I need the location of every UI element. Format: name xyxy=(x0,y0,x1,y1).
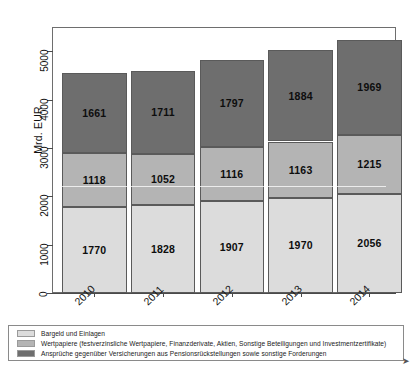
bar-value-label: 1797 xyxy=(220,97,244,109)
bar-segment: 1828 xyxy=(131,205,196,293)
legend-swatch xyxy=(17,330,35,337)
cursor-artifact: ➤ xyxy=(402,356,410,366)
bar-group: 190711161797 xyxy=(200,27,265,293)
legend-label: Bargeld und Einlagen xyxy=(41,330,105,337)
bar-value-label: 1884 xyxy=(289,90,313,102)
bar-value-label: 1970 xyxy=(289,239,313,251)
bar-segment: 1661 xyxy=(62,73,127,153)
bar-value-label: 1163 xyxy=(289,164,313,176)
legend-swatch xyxy=(17,350,35,357)
bar-segment: 1884 xyxy=(268,50,333,141)
y-axis-tick-label: 2000 xyxy=(39,195,50,217)
stacked-bar-chart: Mrd. EUR 010002000300040005000 177011181… xyxy=(0,0,412,370)
bar-segment: 1118 xyxy=(62,153,127,207)
bar-group: 177011181661 xyxy=(62,27,127,293)
chart-legend: Bargeld und EinlagenWertpapiere (festver… xyxy=(8,325,404,361)
bar-value-label: 1969 xyxy=(357,81,381,93)
x-axis-tick xyxy=(94,293,95,297)
bar-value-label: 1661 xyxy=(82,107,106,119)
bar-value-label: 2056 xyxy=(357,237,381,249)
bar-value-label: 1907 xyxy=(220,241,244,253)
legend-item: Wertpapiere (festverzinsliche Wertpapier… xyxy=(17,339,403,349)
bar-value-label: 1770 xyxy=(82,244,106,256)
bar-segment: 1163 xyxy=(268,142,333,198)
y-axis-tick-label: 1000 xyxy=(39,243,50,265)
bar-segment: 1969 xyxy=(337,40,402,135)
bar-segment: 1770 xyxy=(62,207,127,293)
bar-value-label: 1116 xyxy=(220,168,243,180)
legend-swatch xyxy=(17,340,35,347)
bar-segment: 1711 xyxy=(131,71,196,154)
y-axis-tick-label: 3000 xyxy=(39,146,50,168)
legend-item: Ansprüche gegenüber Versicherungen aus P… xyxy=(17,349,403,359)
y-axis-tick-label: 4000 xyxy=(39,98,50,120)
bar-value-label: 1215 xyxy=(357,158,381,170)
bar-segment: 1970 xyxy=(268,198,333,293)
bar-value-label: 1828 xyxy=(151,243,175,255)
bars-layer: 1770111816611828105217111907111617971970… xyxy=(52,27,396,293)
bar-group: 197011631884 xyxy=(268,27,333,293)
bar-segment: 1797 xyxy=(200,60,265,147)
y-axis-tick-label: 5000 xyxy=(39,50,50,72)
y-axis: 010002000300040005000 xyxy=(38,27,53,293)
bar-segment: 1052 xyxy=(131,154,196,205)
bar-segment: 2056 xyxy=(337,194,402,293)
legend-label: Ansprüche gegenüber Versicherungen aus P… xyxy=(41,350,327,357)
bar-value-label: 1118 xyxy=(83,174,106,186)
bar-value-label: 1052 xyxy=(151,173,175,185)
bar-segment: 1907 xyxy=(200,201,265,293)
bar-group: 182810521711 xyxy=(131,27,196,293)
bar-segment: 1215 xyxy=(337,135,402,194)
y-axis-tick-label: 0 xyxy=(39,292,50,298)
x-axis-tick xyxy=(369,293,370,297)
bar-group: 205612151969 xyxy=(337,27,402,293)
legend-label: Wertpapiere (festverzinsliche Wertpapier… xyxy=(41,340,386,347)
legend-item: Bargeld und Einlagen xyxy=(17,329,403,339)
bar-value-label: 1711 xyxy=(151,106,175,118)
bar-segment: 1116 xyxy=(200,147,265,201)
